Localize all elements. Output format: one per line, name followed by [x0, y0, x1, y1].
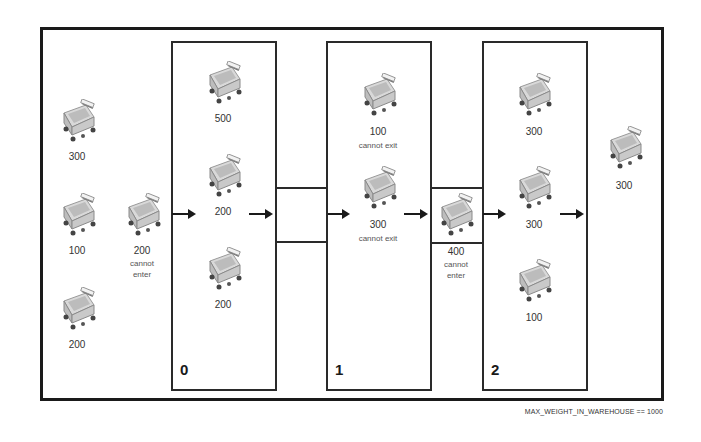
shopping-cart-icon	[56, 193, 98, 237]
shopping-cart-icon	[202, 61, 244, 105]
cart-note: cannot exit	[338, 140, 418, 151]
cart-weight: 300	[499, 126, 569, 138]
shopping-cart-icon	[121, 193, 163, 237]
arrow-exit-stage-1	[404, 213, 426, 215]
cart-weight: 100	[343, 126, 413, 138]
cart-weight: 200	[188, 206, 258, 218]
shopping-cart-icon	[357, 166, 399, 210]
shopping-cart-icon	[56, 287, 98, 331]
connector-0-1	[275, 187, 326, 243]
stage-2-label: 2	[491, 361, 499, 378]
cart-note: enter	[107, 269, 177, 280]
cart-weight: 500	[188, 113, 258, 125]
cart-weight: 200	[188, 299, 258, 311]
cart-weight: 300	[499, 219, 569, 231]
arrow-enter-stage-2	[483, 213, 504, 215]
arrow-exit-stage-2	[560, 213, 582, 215]
arrow-enter-stage-1	[328, 213, 348, 215]
shopping-cart-icon	[357, 73, 399, 117]
cart-note: enter	[421, 270, 491, 281]
cart-note: cannot exit	[338, 233, 418, 244]
max-weight-caption: MAX_WEIGHT_IN_WAREHOUSE == 1000	[525, 408, 663, 415]
cart-note: cannot	[421, 259, 491, 270]
shopping-cart-icon	[603, 126, 645, 170]
cart-weight: 100	[42, 245, 112, 257]
stage-0-label: 0	[180, 361, 188, 378]
shopping-cart-icon	[512, 166, 554, 210]
shopping-cart-icon	[512, 259, 554, 303]
shopping-cart-icon	[202, 154, 244, 198]
shopping-cart-icon	[202, 247, 244, 291]
stage-1-label: 1	[335, 361, 343, 378]
cart-weight: 100	[499, 312, 569, 324]
cart-weight: 200	[107, 245, 177, 257]
cart-weight: 300	[343, 219, 413, 231]
cart-weight: 300	[589, 180, 659, 192]
cart-note: cannot	[107, 258, 177, 269]
shopping-cart-icon	[56, 99, 98, 143]
cart-weight: 200	[42, 339, 112, 351]
cart-weight: 300	[42, 151, 112, 163]
cart-weight: 400	[421, 246, 491, 258]
shopping-cart-icon	[512, 73, 554, 117]
shopping-cart-icon	[434, 193, 476, 237]
